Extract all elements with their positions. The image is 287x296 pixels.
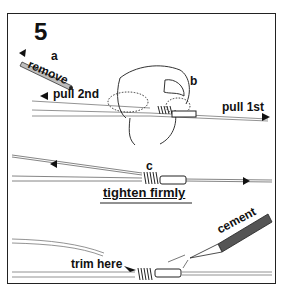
trim-arrow-icon	[124, 266, 136, 272]
label-tighten-firmly: tighten firmly	[103, 186, 185, 199]
label-pull-2nd: pull 2nd	[53, 88, 99, 100]
step-number: 5	[34, 20, 47, 44]
knot-d	[138, 268, 181, 280]
label-c: c	[146, 160, 153, 172]
label-trim-here: trim here	[71, 258, 122, 270]
label-b: b	[190, 75, 197, 87]
arrow-right-icon	[243, 177, 250, 185]
arrow-right-icon	[262, 113, 270, 121]
arrow-left-icon	[19, 49, 26, 57]
arrow-left-icon	[50, 160, 57, 168]
arrow-left-icon	[40, 92, 48, 100]
label-a: a	[51, 50, 58, 62]
label-pull-1st: pull 1st	[222, 101, 264, 113]
knot-c	[144, 172, 186, 184]
hand-sketch	[108, 66, 190, 145]
